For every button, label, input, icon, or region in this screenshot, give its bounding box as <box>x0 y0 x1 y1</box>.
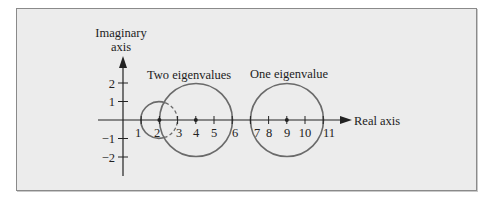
center-dot-4 <box>194 118 198 122</box>
two-eigenvalues-label: Two eigenvalues <box>147 68 231 82</box>
x-tick-label: 10 <box>299 126 312 140</box>
y-tick-label: −2 <box>102 151 115 165</box>
one-eigenvalue-label: One eigenvalue <box>250 67 329 81</box>
real-axis-arrow-icon <box>340 116 352 124</box>
imaginary-axis-label-line2: axis <box>111 40 131 54</box>
x-tick-label: 1 <box>135 126 141 140</box>
real-axis-label: Real axis <box>354 114 400 128</box>
x-tick-label: 2 <box>154 126 160 140</box>
imaginary-axis-arrow-icon <box>119 56 127 68</box>
x-tick-label: 5 <box>211 126 217 140</box>
center-dot-2 <box>157 118 161 122</box>
x-tick-label: 9 <box>284 126 290 140</box>
y-tick-label: 2 <box>109 77 115 91</box>
x-tick-label: 3 <box>176 126 182 140</box>
y-tick-label: 1 <box>109 95 115 109</box>
x-tick-label: 11 <box>323 126 335 140</box>
x-tick-label: 4 <box>193 126 200 140</box>
x-tick-label: 7 <box>254 126 260 140</box>
y-tick-label: −1 <box>102 132 115 146</box>
center-dot-9 <box>285 118 289 122</box>
x-tick-label: 6 <box>232 126 238 140</box>
imaginary-axis-label-line1: Imaginary <box>95 26 147 40</box>
x-tick-label: 8 <box>266 126 272 140</box>
gershgorin-diagram: 1 2 3 4 5 6 7 8 9 10 11 2 1 −1 −2 Imagin… <box>0 0 494 203</box>
